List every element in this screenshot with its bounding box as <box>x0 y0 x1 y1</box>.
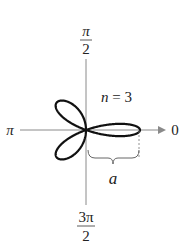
length-brace <box>88 150 139 164</box>
n-equation-label: n = 3 <box>101 89 132 105</box>
top-label-denominator: 2 <box>82 41 90 57</box>
n-variable: n <box>101 89 109 105</box>
bottom-label-numerator: 3π <box>78 209 94 225</box>
arrow-right-icon <box>158 126 166 134</box>
left-label: π <box>6 122 14 138</box>
length-label: a <box>109 169 118 188</box>
top-label-numerator: π <box>82 23 90 39</box>
bottom-label-denominator: 2 <box>82 228 90 244</box>
right-label: 0 <box>171 122 179 138</box>
n-value: = 3 <box>112 89 132 105</box>
polar-rose-diagram: π 2 3π 2 π 0 n = 3 a <box>0 0 188 252</box>
